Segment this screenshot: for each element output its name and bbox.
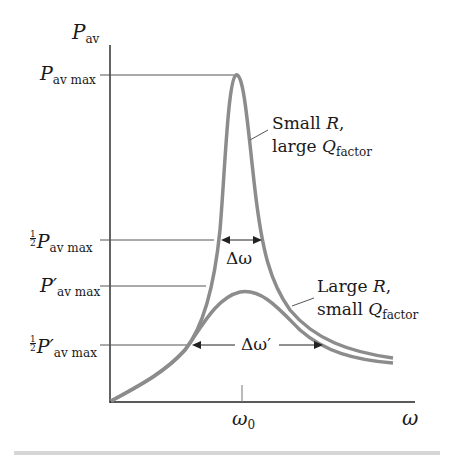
pprime-max-label: P′av max — [40, 276, 100, 298]
y-axis-label: Pav — [72, 22, 99, 45]
small-r-leader — [250, 130, 268, 140]
delta-omega-prime-arrow-left — [192, 341, 201, 349]
bottom-divider-bar — [14, 451, 440, 455]
delta-omega-arrow-left — [221, 236, 230, 244]
delta-omega-label: Δω — [226, 250, 252, 267]
half-pprime-max-label: 12P′av max — [30, 335, 97, 359]
small-r-annotation: Small R, large Qfactor — [272, 112, 372, 160]
omega0-label: ω0 — [232, 409, 255, 431]
pmax-label: Pav max — [40, 64, 96, 86]
resonance-chart: Pav Pav max 12Pav max P′av max 12P′av ma… — [0, 0, 450, 459]
half-pmax-label: 12Pav max — [30, 230, 93, 254]
x-axis-label: ω — [402, 408, 418, 428]
large-r-annotation: Large R, small Qfactor — [317, 275, 418, 323]
large-r-leader — [292, 298, 314, 306]
delta-omega-prime-label: Δω′ — [241, 336, 271, 353]
